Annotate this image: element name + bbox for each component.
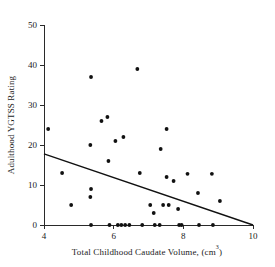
data-point [127,223,131,227]
data-point [165,175,169,179]
data-point [69,203,73,207]
data-point [108,223,112,227]
y-tick-label: 30 [28,100,38,110]
x-tick-label: 4 [42,231,47,241]
x-tick-label: 10 [249,231,259,241]
data-point [161,203,165,207]
data-point [186,172,190,176]
x-axis-title: Total Childhood Caudate Volume, (cm3) [72,244,222,257]
y-axis-tick-labels: 01020304050 [28,20,38,230]
data-point [218,199,222,203]
data-point [135,67,139,71]
y-tick-label: 50 [28,20,38,30]
scatter-plot-figure: 01020304050 46810 Total Childhood Caudat… [0,0,275,267]
data-point [116,223,120,227]
x-tick-label: 8 [181,231,186,241]
data-point [197,223,201,227]
x-axis-group: 46810 [42,225,258,241]
y-tick-label: 0 [33,220,38,230]
data-point [159,147,163,151]
y-tick-label: 20 [28,140,38,150]
data-point [114,139,118,143]
data-point [152,211,156,215]
data-point [140,223,144,227]
data-point [210,172,214,176]
data-point [138,171,142,175]
data-point [88,195,92,199]
data-point [60,171,64,175]
data-point [180,223,184,227]
data-point [158,223,162,227]
data-point [167,203,171,207]
x-tick-label: 6 [111,231,116,241]
data-point [153,223,157,227]
data-point [46,127,50,131]
y-axis-title: Adulthood YGTSS Rating [6,75,16,174]
y-axis-ticks [40,25,44,225]
data-point [148,203,152,207]
data-point [89,187,93,191]
data-point [176,207,180,211]
data-point [123,223,127,227]
data-point [89,75,93,79]
data-point [165,127,169,131]
regression-trend-line [44,154,253,225]
data-point [211,223,215,227]
x-axis-tick-labels: 46810 [42,231,258,241]
data-points-group [46,67,222,227]
data-point [88,143,92,147]
y-axis-group: 01020304050 [28,20,44,230]
data-point [119,223,123,227]
data-point [172,179,176,183]
data-point [105,115,109,119]
data-point [100,119,104,123]
x-axis-ticks [44,225,253,229]
data-point [107,159,111,163]
y-tick-label: 10 [28,180,38,190]
plot-canvas: 01020304050 46810 Total Childhood Caudat… [0,0,275,267]
y-tick-label: 40 [28,60,38,70]
data-point [196,191,200,195]
data-point [122,135,126,139]
data-point [89,223,93,227]
